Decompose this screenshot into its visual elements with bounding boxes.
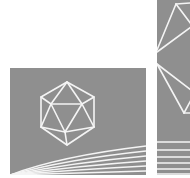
artwork-canvas <box>0 0 190 178</box>
right-panel-background <box>157 0 190 175</box>
panel-gap <box>146 0 157 178</box>
icosahedron-edge <box>176 3 190 4</box>
right-panel <box>157 0 190 175</box>
bottom-margin <box>0 175 190 178</box>
left-panel-background <box>10 68 146 175</box>
left-panel <box>10 68 146 175</box>
